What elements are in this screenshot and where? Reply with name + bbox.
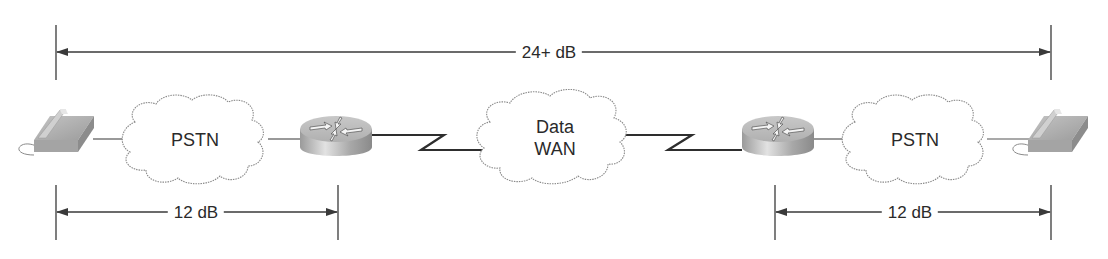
cloud-label-pstn-left: PSTN [171, 131, 219, 149]
dimension-label-left-segment: 12 dB [168, 204, 224, 221]
dimension-label-right-segment: 12 dB [882, 204, 938, 221]
phone-right [1013, 110, 1088, 155]
phone-left [19, 110, 94, 155]
cloud-label-data-wan-line1: Data [534, 117, 575, 139]
serial-link-right [625, 135, 742, 150]
serial-link-left [372, 135, 486, 150]
router-icon [742, 116, 814, 156]
cloud-label-pstn-right: PSTN [891, 131, 939, 149]
telephone-icon [19, 110, 94, 155]
dimension-label-end-to-end: 24+ dB [516, 44, 582, 61]
router-right [742, 116, 814, 156]
cloud-label-data-wan-line2: WAN [534, 139, 575, 161]
telephone-icon [1013, 110, 1088, 155]
router-icon [300, 116, 372, 156]
cloud-label-data-wan: Data WAN [534, 117, 575, 160]
router-left [300, 116, 372, 156]
